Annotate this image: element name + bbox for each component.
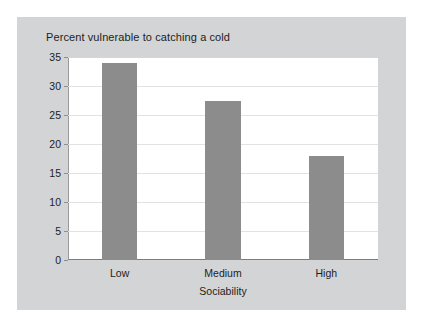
y-axis-tick-mark — [64, 202, 68, 203]
x-axis-tick-label: High — [316, 267, 338, 279]
gridline — [68, 57, 378, 58]
y-axis-tick-label: 5 — [55, 225, 61, 237]
y-axis-tick-mark — [64, 260, 68, 261]
y-axis-tick-label: 25 — [49, 109, 61, 121]
y-axis-tick-mark — [64, 173, 68, 174]
bar — [102, 63, 138, 260]
y-axis-tick-label: 30 — [49, 80, 61, 92]
x-axis-tick-label: Low — [110, 267, 129, 279]
y-axis-tick-label: 0 — [55, 254, 61, 266]
bar — [309, 156, 345, 260]
y-axis-tick-mark — [64, 57, 68, 58]
chart-figure: Percent vulnerable to catching a cold 05… — [0, 0, 423, 327]
y-axis-tick-mark — [64, 231, 68, 232]
bar — [205, 101, 241, 261]
x-axis-title: Sociability — [199, 285, 246, 297]
y-axis-tick-label: 15 — [49, 167, 61, 179]
x-axis-tick-label: Medium — [204, 267, 241, 279]
plot-region: 05101520253035 LowMediumHigh Sociability — [68, 57, 378, 260]
y-axis-tick-label: 20 — [49, 138, 61, 150]
y-axis-tick-label: 10 — [49, 196, 61, 208]
chart-panel: Percent vulnerable to catching a cold 05… — [17, 17, 406, 310]
y-axis-tick-label: 35 — [49, 51, 61, 63]
y-axis-tick-mark — [64, 115, 68, 116]
chart-title: Percent vulnerable to catching a cold — [46, 31, 230, 44]
y-axis-tick-mark — [64, 86, 68, 87]
y-axis-tick-mark — [64, 144, 68, 145]
